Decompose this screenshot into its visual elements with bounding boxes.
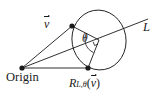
rotation-argument-letter: v — [91, 76, 96, 90]
rotated-vector-tip-dot — [85, 65, 90, 70]
rotation-argument-glyph: v — [91, 77, 96, 89]
rotation-subscript: L,θ — [76, 80, 86, 89]
rotated-vector-label: RL,θ(v) — [69, 77, 100, 89]
paren-close: ) — [96, 76, 100, 90]
vector-v-segment — [22, 26, 72, 68]
vector-v-tip-dot — [69, 23, 74, 28]
origin-label: Origin — [6, 71, 39, 84]
vector-arrow-overbar-icon — [44, 16, 49, 17]
vector-v-letter: v — [44, 17, 49, 31]
vector-v-label: v — [44, 18, 49, 30]
rotation-diagram-figure: Origin v θ L RL,θ(v) — [0, 0, 158, 96]
angle-theta-label: θ — [82, 33, 88, 45]
vector-v-glyph: v — [44, 18, 49, 30]
argument-arrow-overbar-icon — [91, 75, 96, 76]
line-L-label: L — [143, 21, 150, 34]
